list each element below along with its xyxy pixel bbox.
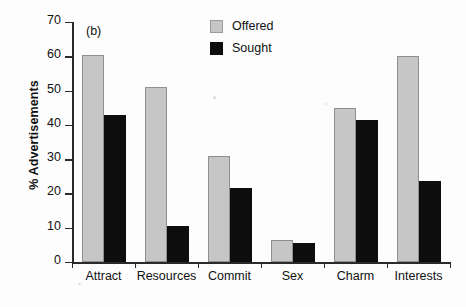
bar-commit-offered bbox=[208, 156, 230, 262]
figure-panel-b: % Advertisements (b) Offered Sought 0102… bbox=[0, 0, 466, 307]
y-tick-label: 40 bbox=[47, 116, 61, 130]
bar-group-commit bbox=[208, 22, 252, 262]
scan-speck bbox=[325, 103, 327, 105]
y-tick-label: 0 bbox=[54, 253, 61, 267]
y-tick-label: 70 bbox=[47, 13, 61, 27]
bar-sex-offered bbox=[271, 240, 293, 262]
y-axis-title: % Advertisements bbox=[27, 35, 41, 235]
bar-group-resources bbox=[145, 22, 189, 262]
scan-speck bbox=[213, 96, 216, 99]
bar-group-interests bbox=[397, 22, 441, 262]
y-tick-40: 40 bbox=[65, 125, 72, 126]
bar-resources-sought bbox=[167, 226, 189, 262]
bar-attract-offered bbox=[82, 55, 104, 262]
plot-area: (b) Offered Sought 010203040506070 Attra… bbox=[72, 22, 450, 262]
bar-sex-sought bbox=[293, 243, 315, 262]
y-tick-70: 70 bbox=[65, 22, 72, 23]
y-tick-30: 30 bbox=[65, 159, 72, 160]
bar-commit-sought bbox=[230, 188, 252, 262]
x-tick bbox=[135, 262, 136, 268]
y-tick-20: 20 bbox=[65, 193, 72, 194]
y-tick-0: 0 bbox=[65, 262, 72, 263]
x-category-label-interests: Interests bbox=[395, 269, 443, 283]
bar-interests-sought bbox=[419, 181, 441, 262]
bar-attract-sought bbox=[104, 115, 126, 262]
bar-interests-offered bbox=[397, 56, 419, 262]
y-axis-line bbox=[72, 22, 74, 262]
x-category-label-sex: Sex bbox=[282, 269, 304, 283]
x-tick bbox=[198, 262, 199, 268]
bar-group-attract bbox=[82, 22, 126, 262]
bar-resources-offered bbox=[145, 87, 167, 262]
x-category-label-commit: Commit bbox=[208, 269, 251, 283]
y-tick-label: 50 bbox=[47, 82, 61, 96]
y-tick-50: 50 bbox=[65, 91, 72, 92]
x-tick bbox=[450, 262, 451, 268]
y-tick-label: 60 bbox=[47, 47, 61, 61]
y-tick-60: 60 bbox=[65, 56, 72, 57]
x-tick bbox=[261, 262, 262, 268]
x-category-label-attract: Attract bbox=[85, 269, 121, 283]
y-tick-label: 30 bbox=[47, 150, 61, 164]
y-tick-label: 10 bbox=[47, 219, 61, 233]
bar-charm-sought bbox=[356, 120, 378, 262]
x-tick bbox=[324, 262, 325, 268]
x-tick bbox=[387, 262, 388, 268]
scan-speck bbox=[78, 283, 81, 285]
bar-group-charm bbox=[334, 22, 378, 262]
bar-charm-offered bbox=[334, 108, 356, 262]
x-category-label-resources: Resources bbox=[137, 269, 197, 283]
y-tick-10: 10 bbox=[65, 228, 72, 229]
x-category-label-charm: Charm bbox=[337, 269, 375, 283]
bar-group-sex bbox=[271, 22, 315, 262]
y-tick-label: 20 bbox=[47, 184, 61, 198]
x-tick bbox=[72, 262, 73, 268]
